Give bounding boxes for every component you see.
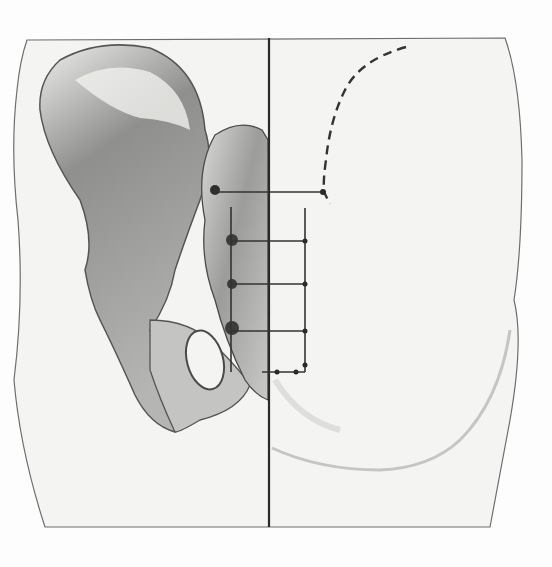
point-2-right xyxy=(303,282,308,287)
psis-point xyxy=(320,189,326,195)
sacral-dark-spot xyxy=(210,185,220,195)
point-1-right xyxy=(303,239,308,244)
anatomical-illustration xyxy=(0,0,552,567)
point-coccyx-right xyxy=(303,363,308,368)
point-coccyx-mid xyxy=(294,370,299,375)
illustration-svg xyxy=(0,0,552,567)
point-3-right xyxy=(303,329,308,334)
sacral-foramen-3 xyxy=(225,321,239,335)
sacral-foramen-1 xyxy=(226,234,238,246)
point-coccyx-left xyxy=(275,370,280,375)
